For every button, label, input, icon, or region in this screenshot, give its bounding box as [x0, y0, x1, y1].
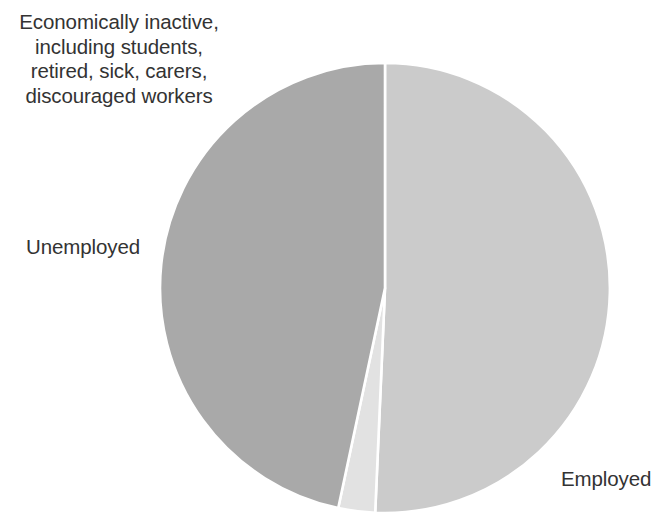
pie-chart-figure: Economically inactive, including student… — [0, 0, 665, 522]
slice-label-unemployed: Unemployed — [26, 234, 140, 260]
pie-slice-group — [160, 63, 610, 513]
slice-label-economically-inactive: Economically inactive, including student… — [8, 10, 230, 108]
slice-label-employed: Employed — [561, 466, 651, 492]
